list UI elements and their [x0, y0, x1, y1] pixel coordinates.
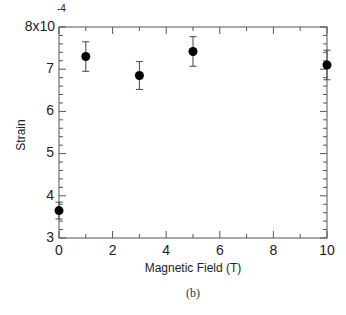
- data-point: [189, 37, 198, 67]
- y-axis-title: Strain: [14, 119, 28, 150]
- x-axis-ticks: 0246810: [55, 27, 335, 258]
- strain-vs-field-chart: 0246810 34567 8x10 -4 Strain Magnetic Fi…: [0, 0, 346, 315]
- filled-circle-marker: [323, 60, 332, 69]
- x-tick-label: 4: [162, 242, 170, 258]
- x-tick-label: 8: [270, 242, 278, 258]
- data-points: [55, 37, 332, 219]
- filled-circle-marker: [55, 206, 64, 215]
- y-tick-label: 4: [46, 187, 54, 203]
- x-axis-title: Magnetic Field (T): [145, 261, 242, 275]
- filled-circle-marker: [135, 71, 144, 80]
- x-tick-label: 2: [109, 242, 117, 258]
- filled-circle-marker: [81, 52, 90, 61]
- y-multiplier-exponent: -4: [57, 3, 66, 14]
- data-point: [323, 50, 332, 80]
- figure-caption: (b): [186, 286, 200, 300]
- data-point: [81, 42, 90, 72]
- y-tick-label: 6: [46, 102, 54, 118]
- data-point: [135, 62, 144, 90]
- plot-area: 0246810 34567: [46, 27, 335, 258]
- y-top-tick-label: 8x10: [25, 18, 56, 34]
- y-tick-label: 7: [46, 60, 54, 76]
- y-axis-multiplier-label: 8x10 -4: [25, 3, 67, 34]
- x-tick-label: 10: [319, 242, 335, 258]
- y-tick-label: 5: [46, 144, 54, 160]
- filled-circle-marker: [189, 47, 198, 56]
- x-tick-label: 6: [216, 242, 224, 258]
- x-tick-label: 0: [55, 242, 63, 258]
- y-tick-label: 3: [46, 229, 54, 245]
